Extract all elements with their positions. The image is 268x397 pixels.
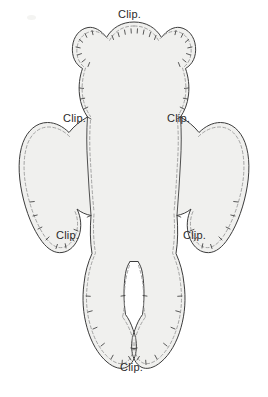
pattern-sheet: Clip. Clip. Clip. Clip. Clip. Clip.: [0, 0, 268, 397]
pattern-piece-body: [19, 22, 249, 368]
body-cut-outline: [19, 22, 249, 368]
scan-artifact-mark: [27, 15, 36, 20]
teddy-bear-pattern-drawing: [0, 0, 268, 397]
